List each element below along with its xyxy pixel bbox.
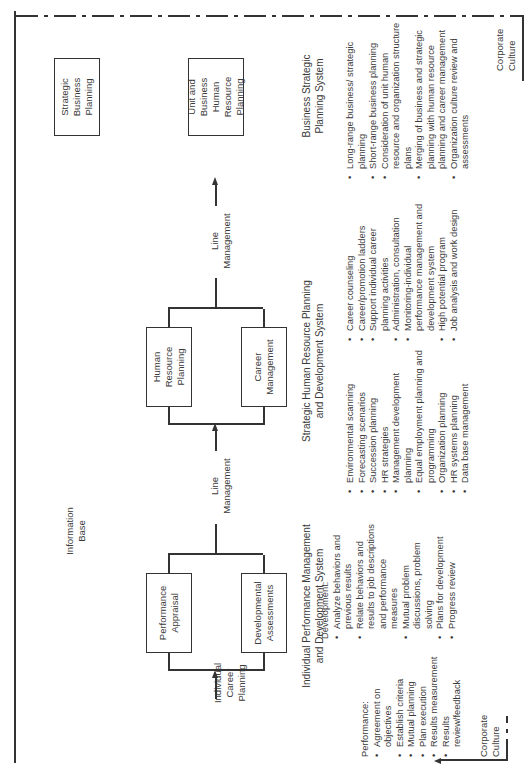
list-item: Plan execution: [418, 647, 430, 757]
hr-bracket-bottom-left: [263, 407, 265, 425]
list-item: Succession planning: [368, 343, 380, 493]
list-item: Management development planning: [391, 343, 414, 493]
icp-input-arrow-icon: [212, 670, 218, 678]
information-base-label: Information Base: [64, 491, 88, 571]
list-item: Relate behaviors and results to job desc…: [355, 519, 401, 639]
hr-output-line: [215, 278, 217, 308]
icp-input-line: [215, 677, 217, 699]
list-item: Support individual career planning activ…: [368, 201, 391, 341]
list-item: Administration, consultation: [391, 201, 403, 341]
rotated-diagram-canvas: Information Base Corporate Culture Corpo…: [0, 0, 531, 771]
list-item: Plans for development: [435, 519, 447, 639]
hr-bracket-left: [168, 424, 263, 426]
human-resource-planning-box: Human Resource Planning: [146, 327, 192, 407]
list-item: Merging of business and strategic planni…: [414, 14, 449, 179]
career-management-box: Career Management: [241, 327, 287, 407]
list-item: Monitoring-individual performance manage…: [403, 201, 438, 341]
individual-career-planning-label: Individual Career Planning: [212, 653, 248, 713]
list-item: HR systems planning: [449, 343, 461, 493]
hr-bracket-top-left: [168, 407, 170, 425]
list-item: Career/promotion ladders: [357, 201, 369, 341]
individual-performance-list: Performance: Agreement on objectives Est…: [360, 647, 464, 757]
list-item: Career counseling: [345, 201, 357, 341]
corporate-culture-left-arrow-icon: [434, 758, 441, 764]
individual-output-line: [215, 524, 217, 554]
corporate-culture-left-line: [506, 716, 508, 761]
developmental-assessments-box: Developmental Assessments: [241, 573, 287, 653]
hr-bracket-bottom-right: [263, 309, 265, 327]
individual-bracket-top-right: [168, 555, 170, 573]
performance-list-heading: Performance:: [360, 647, 372, 757]
unit-business-hr-planning-box: Unit and Business Human Resource Plannin…: [188, 58, 244, 136]
corporate-culture-left-dash: [460, 760, 506, 762]
line-management-2-label: Line Management: [209, 206, 233, 276]
list-item: Organization planning: [437, 343, 449, 493]
business-strategic-list: Long-range business/ strategic planning …: [345, 14, 472, 179]
line-management-1-arrow-line: [215, 429, 217, 451]
list-item: High potential program: [437, 201, 449, 341]
list-item: Results review/feedback: [441, 647, 464, 757]
line-management-2-arrow-line: [215, 184, 217, 206]
list-item: Analyze behaviors and previous results: [332, 519, 355, 639]
individual-bracket-bottom-left: [263, 653, 265, 671]
list-item: Results measurement: [429, 647, 441, 757]
list-item: Data base management: [460, 343, 472, 493]
line-management-2-arrow-icon: [212, 177, 218, 185]
corporate-culture-left-label: Corporate Culture: [478, 707, 502, 757]
hr-bracket-top-right: [168, 309, 170, 327]
line-management-1-label: Line Management: [209, 451, 233, 521]
list-item: Organization culture review and assessme…: [449, 14, 472, 179]
individual-bracket-bottom-right: [263, 555, 265, 573]
corporate-culture-right-label: Corporate Culture: [494, 21, 518, 71]
list-item: Environmental scanning: [345, 343, 357, 493]
information-base-line: [14, 11, 16, 763]
performance-appraisal-box: Performance Appraisal: [146, 573, 192, 653]
list-item: Job analysis and work design: [449, 201, 461, 341]
corporate-culture-right-bottom: [522, 16, 524, 81]
list-item: Establish criteria: [395, 647, 407, 757]
development-list-heading: Development:: [320, 519, 332, 639]
career-management-list: Career counseling Career/promotion ladde…: [345, 201, 460, 341]
list-item: HR strategies: [380, 343, 392, 493]
list-item: Consideration of unit human resource and…: [380, 14, 415, 179]
individual-development-list: Development: Analyze behaviors and previ…: [320, 519, 458, 639]
business-strategic-system-title: Business Strategic Planning System: [300, 31, 326, 161]
list-item: Equal employment planning and programmin…: [414, 343, 437, 493]
list-item: Progress review: [447, 519, 459, 639]
strategic-business-planning-box: Strategic Business Planning: [54, 58, 100, 136]
list-item: Agreement on objectives: [372, 647, 395, 757]
list-item: Forecasting scenarios: [357, 343, 369, 493]
list-item: Mutual planning: [406, 647, 418, 757]
hr-planning-list: Environmental scanning Forecasting scena…: [345, 343, 472, 493]
strategic-hr-system-title: Strategic Human Resource Planning and De…: [300, 251, 326, 471]
list-item: Mutual problem discussions, problem solv…: [401, 519, 436, 639]
individual-bracket-top-left: [168, 653, 170, 671]
list-item: Long-range business/ strategic planning: [345, 14, 368, 179]
list-item: Short-range business planning: [368, 14, 380, 179]
